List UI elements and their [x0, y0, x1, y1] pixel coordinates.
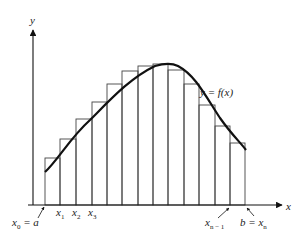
- curve-f-of-x: [45, 64, 246, 172]
- riemann-rectangle: [92, 102, 107, 205]
- x0-pointer-arrow: [38, 207, 44, 218]
- riemann-rectangle: [153, 64, 168, 205]
- curve-label: y = f(x): [199, 86, 233, 99]
- riemann-rectangle: [168, 70, 184, 205]
- riemann-rectangle: [199, 105, 215, 205]
- x-axis-label: x: [285, 200, 291, 212]
- riemann-rectangle: [230, 143, 245, 205]
- riemann-rectangle: [184, 84, 199, 205]
- riemann-rectangle: [138, 66, 153, 205]
- tick-label-x2: x2: [71, 206, 81, 221]
- tick-label-xn-minus-1: xn − 1: [204, 216, 225, 231]
- tick-label-x0: x0 = a: [11, 216, 39, 231]
- riemann-rectangle: [60, 139, 76, 205]
- tick-label-x3: x3: [87, 206, 97, 221]
- riemann-rectangle: [215, 126, 230, 205]
- riemann-rectangle: [122, 71, 138, 205]
- tick-label-x1: x1: [55, 206, 65, 221]
- tick-label-b-xn: b = xn: [240, 216, 267, 231]
- y-axis-label: y: [29, 14, 35, 26]
- xn-pointer-arrow: [247, 208, 254, 216]
- xn-minus-1-pointer-arrow: [218, 208, 229, 218]
- riemann-sum-diagram: y x y = f(x) x0 = a x1 x2 x3 xn − 1 b = …: [0, 0, 307, 244]
